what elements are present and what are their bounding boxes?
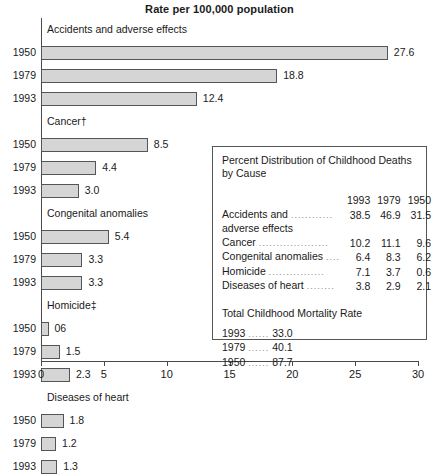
- bar: [41, 230, 109, 244]
- inset-row-name: Cancer: [222, 236, 256, 248]
- inset-total-row: 1979 ...... 40.1: [222, 341, 417, 356]
- inset-cell: 7.1: [340, 265, 370, 280]
- group-label: Cancer†: [47, 115, 87, 127]
- inset-total-year: 1950: [222, 356, 245, 368]
- inset-row-label: Congenital anomalies ....: [222, 250, 340, 265]
- x-tick: [104, 361, 105, 366]
- year-label: 1993: [0, 92, 36, 104]
- inset-total-value: 87.7: [272, 356, 292, 368]
- year-label: 1979: [0, 253, 36, 265]
- inset-header-row: 199319791950: [222, 194, 431, 208]
- inset-row-label: Diseases of heart ........: [222, 279, 340, 294]
- bar-value-label: 1.3: [63, 460, 78, 472]
- inset-row-label: Homicide ................: [222, 265, 340, 280]
- inset-cell: 38.5: [340, 208, 370, 223]
- inset-cell: 31.5: [401, 208, 431, 223]
- bar: [41, 460, 57, 474]
- bar: [41, 322, 49, 336]
- inset-row-continuation: adverse effects: [222, 222, 431, 236]
- inset-row-name: Accidents and: [222, 208, 288, 220]
- inset-total-leader: ......: [248, 329, 269, 339]
- x-tick: [167, 361, 168, 366]
- inset-total-year: 1979: [222, 341, 245, 353]
- inset-row: Homicide ................7.13.70.6: [222, 265, 431, 280]
- inset-row-label: Cancer ....................: [222, 236, 340, 251]
- inset-row-name: Diseases of heart: [222, 279, 304, 291]
- inset-cell: 3.8: [340, 279, 370, 294]
- inset-row-leader: ............: [291, 210, 333, 220]
- year-label: 1993: [0, 276, 36, 288]
- bar-value-label: 5.4: [115, 230, 130, 242]
- inset-total-row: 1993 ...... 33.0: [222, 327, 417, 342]
- inset-cell: 46.9: [370, 208, 400, 223]
- inset-column-header: 1950: [401, 194, 431, 208]
- inset-row: Diseases of heart ........3.82.92.1: [222, 279, 431, 294]
- inset-row-leader: ....: [326, 252, 340, 262]
- group-label: Diseases of heart: [47, 391, 129, 403]
- inset-cell-empty: [370, 222, 400, 236]
- bar: [41, 276, 82, 290]
- year-label: 1993: [0, 460, 36, 472]
- x-tick: [41, 361, 42, 366]
- year-label: 1950: [0, 230, 36, 242]
- bar-value-label: 8.5: [154, 138, 169, 150]
- inset-cell: 6.2: [401, 250, 431, 265]
- year-label: 1950: [0, 322, 36, 334]
- inset-title: Percent Distribution of Childhood Deaths…: [222, 154, 417, 180]
- bar: [41, 437, 56, 451]
- inset-cell: 0.6: [401, 265, 431, 280]
- bar-value-label: 1.5: [66, 345, 81, 357]
- inset-row: Accidents and ............38.546.931.5: [222, 208, 431, 223]
- inset-column-header: 1979: [370, 194, 400, 208]
- inset-cell: 2.1: [401, 279, 431, 294]
- year-label: 1979: [0, 161, 36, 173]
- inset-header-spacer: [222, 194, 340, 208]
- inset-cell: 3.7: [370, 265, 400, 280]
- bar-value-label: 18.8: [283, 69, 303, 81]
- inset-total-value: 40.1: [272, 341, 292, 353]
- inset-row-leader: ....................: [259, 238, 329, 248]
- inset-table: 199319791950Accidents and ............38…: [222, 194, 431, 294]
- x-tick: [418, 361, 419, 366]
- inset-row-name-line2: adverse effects: [222, 222, 340, 236]
- bar-value-label: 1.2: [62, 437, 77, 449]
- inset-total-value: 33.0: [272, 327, 292, 339]
- group-label: Accidents and adverse effects: [47, 23, 187, 35]
- inset-row-leader: ........: [307, 281, 335, 291]
- x-tick-label: 10: [152, 368, 182, 380]
- bar-value-label: 3.3: [88, 253, 103, 265]
- inset-totals: 1993 ...... 33.01979 ...... 40.11950 ...…: [222, 327, 417, 371]
- bar: [41, 414, 64, 428]
- inset-total-row: 1950 ...... 87.7: [222, 356, 417, 371]
- bar: [41, 161, 96, 175]
- bar: [41, 345, 60, 359]
- bar: [41, 69, 277, 83]
- bar-value-label: 4.4: [102, 161, 117, 173]
- inset-row: Congenital anomalies ....6.48.36.2: [222, 250, 431, 265]
- group-label: Homicide‡: [47, 299, 97, 311]
- bar-value-label: 3.3: [88, 276, 103, 288]
- bar-value-label: 12.4: [203, 92, 223, 104]
- inset-row-name: Congenital anomalies: [222, 250, 323, 262]
- year-label: 1979: [0, 345, 36, 357]
- year-label: 1993: [0, 368, 36, 380]
- inset-cell: 9.6: [401, 236, 431, 251]
- bar-value-label: 1.8: [70, 414, 85, 426]
- inset-row: Cancer ....................10.211.19.6: [222, 236, 431, 251]
- inset-cell: 8.3: [370, 250, 400, 265]
- inset-column-header: 1993: [340, 194, 370, 208]
- inset-cell: 2.9: [370, 279, 400, 294]
- year-label: 1950: [0, 138, 36, 150]
- inset-row-label: Accidents and ............: [222, 208, 340, 223]
- inset-cell: 10.2: [340, 236, 370, 251]
- year-label: 1979: [0, 437, 36, 449]
- inset-cell: 11.1: [370, 236, 400, 251]
- bar: [41, 184, 79, 198]
- bar-value-label: 06: [55, 322, 67, 334]
- bar-value-label: 3.0: [85, 184, 100, 196]
- inset-cell-empty: [340, 222, 370, 236]
- inset-total-leader: ......: [248, 343, 269, 353]
- year-label: 1979: [0, 69, 36, 81]
- inset-row-leader: ................: [269, 267, 325, 277]
- bar: [41, 138, 148, 152]
